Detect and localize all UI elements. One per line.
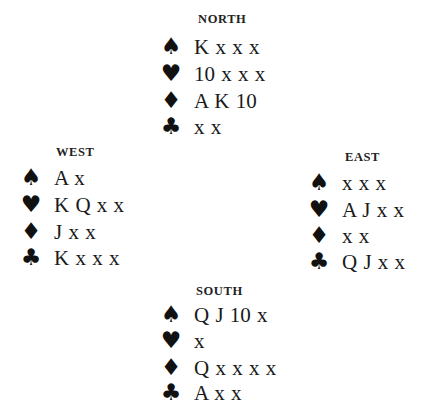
east-clubs-cards: Q J x x — [342, 250, 405, 274]
east-diamonds-cards: x x — [342, 224, 369, 248]
south-hearts-cards: x — [194, 329, 205, 353]
spade-icon: ♠ — [160, 34, 182, 58]
north-spades-cards: K x x x — [194, 35, 259, 59]
west-diamonds-cards: J x x — [54, 220, 96, 244]
east-spades-cards: x x x — [342, 171, 386, 195]
south-spades-cards: Q J 10 x — [194, 303, 268, 327]
west-spades-cards: A x — [54, 166, 85, 190]
west-clubs-cards: K x x x — [54, 246, 119, 270]
spade-icon: ♠ — [308, 170, 330, 194]
east-label: EAST — [345, 150, 380, 165]
west-label: WEST — [56, 145, 95, 160]
heart-icon: ♥ — [160, 328, 182, 352]
diamond-icon: ♦ — [160, 88, 182, 112]
south-diamonds-cards: Q x x x x — [194, 356, 276, 380]
club-icon: ♣ — [160, 114, 182, 138]
north-hand: NORTH ♠ K x x x ♥ 10 x x x ♦ A K 10 ♣ x … — [160, 10, 300, 140]
north-hearts-cards: 10 x x x — [194, 62, 265, 86]
spade-icon: ♠ — [160, 302, 182, 326]
east-hearts-cards: A J x x — [342, 198, 404, 222]
diamond-icon: ♦ — [160, 355, 182, 379]
south-hand: SOUTH ♠ Q J 10 x ♥ x ♦ Q x x x x ♣ A x x — [160, 282, 310, 418]
club-icon: ♣ — [160, 380, 182, 404]
heart-icon: ♥ — [20, 192, 42, 216]
south-label: SOUTH — [196, 284, 243, 299]
heart-icon: ♥ — [308, 197, 330, 221]
diamond-icon: ♦ — [308, 223, 330, 247]
west-hearts-cards: K Q x x — [54, 193, 124, 217]
north-clubs-cards: x x — [194, 115, 221, 139]
east-hand: EAST ♠ x x x ♥ A J x x ♦ x x ♣ Q J x x — [308, 148, 431, 278]
club-icon: ♣ — [308, 249, 330, 273]
west-hand: WEST ♠ A x ♥ K Q x x ♦ J x x ♣ K x x x — [20, 143, 160, 273]
north-label: NORTH — [198, 12, 246, 27]
south-clubs-cards: A x x — [194, 381, 242, 405]
diamond-icon: ♦ — [20, 219, 42, 243]
spade-icon: ♠ — [20, 165, 42, 189]
heart-icon: ♥ — [160, 61, 182, 85]
club-icon: ♣ — [20, 245, 42, 269]
north-diamonds-cards: A K 10 — [194, 89, 257, 113]
